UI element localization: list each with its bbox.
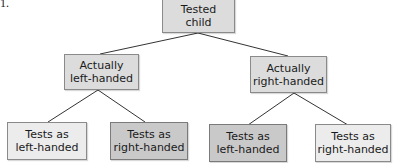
- node-line: left-handed: [15, 141, 78, 154]
- node-line: Tests as: [25, 128, 68, 141]
- node-right-tests-right: Tests asright-handed: [315, 124, 391, 162]
- node-line: right-handed: [113, 141, 184, 154]
- node-line: Tests as: [127, 128, 170, 141]
- node-line: Actually: [79, 59, 123, 72]
- node-line: right-handed: [317, 143, 388, 156]
- node-line: left-handed: [70, 72, 133, 85]
- node-left-tests-right: Tests asright-handed: [110, 122, 188, 160]
- edge-root-left: [100, 33, 198, 54]
- node-left-tests-left: Tests asleft-handed: [7, 122, 87, 160]
- edge-left-ll: [48, 90, 98, 122]
- node-tested-child: Testedchild: [162, 0, 235, 33]
- node-line: Tests as: [331, 130, 374, 143]
- edge-root-right: [198, 33, 288, 56]
- node-line: right-handed: [253, 75, 324, 88]
- node-line: left-handed: [216, 143, 279, 156]
- edge-right-rl: [248, 93, 294, 125]
- edge-left-lr: [98, 90, 145, 122]
- edge-right-rr: [294, 93, 348, 125]
- node-actually-right-handed: Actuallyright-handed: [250, 56, 327, 93]
- node-line: child: [185, 16, 211, 29]
- node-right-tests-left: Tests asleft-handed: [209, 124, 287, 162]
- node-actually-left-handed: Actuallyleft-handed: [64, 54, 139, 90]
- node-line: Tested: [181, 3, 216, 16]
- node-line: Tests as: [226, 130, 269, 143]
- node-line: Actually: [266, 62, 310, 75]
